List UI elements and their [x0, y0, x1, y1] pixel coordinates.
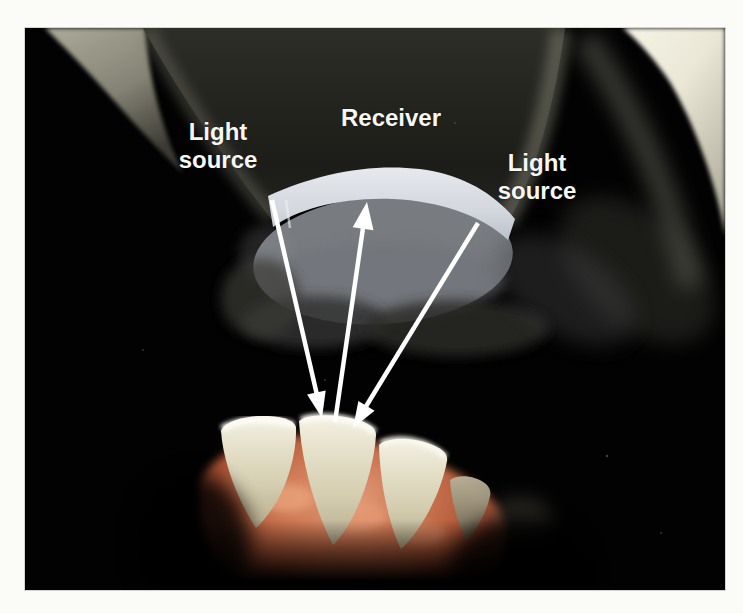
- label-light-source-right: Light source: [487, 149, 587, 206]
- label-receiver: Receiver: [341, 104, 441, 132]
- label-light-source-left: Light source: [168, 118, 268, 175]
- illustration-canvas: Light source Receiver Light source: [25, 28, 725, 590]
- page: Light source Receiver Light source: [0, 0, 743, 613]
- bottom-fade: [155, 520, 595, 590]
